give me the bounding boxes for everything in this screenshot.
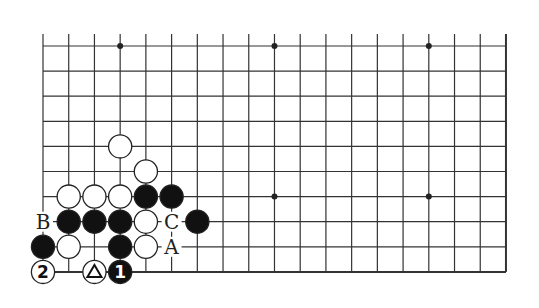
star-point (117, 43, 123, 49)
black-stone (83, 210, 106, 233)
go-board-diagram: 21 BCA (0, 0, 539, 308)
white-stone (83, 260, 106, 283)
move-number: 2 (37, 262, 49, 282)
black-stone (109, 235, 132, 258)
black-stone (186, 210, 209, 233)
point-label-b: B (36, 210, 51, 234)
star-point (426, 43, 432, 49)
white-stone (134, 160, 157, 183)
letter-labels: BCA (36, 210, 180, 259)
white-stone (57, 185, 80, 208)
white-stone: 2 (31, 260, 54, 283)
black-stone (160, 185, 183, 208)
star-point (271, 194, 277, 200)
board-grid (33, 34, 506, 272)
black-stone (31, 235, 54, 258)
point-label-c: C (164, 210, 179, 234)
point-label-a: A (163, 235, 179, 259)
white-stone (57, 235, 80, 258)
move-number: 1 (114, 262, 126, 282)
star-point (271, 43, 277, 49)
white-stone (109, 135, 132, 158)
white-stone (134, 210, 157, 233)
black-stone: 1 (109, 260, 132, 283)
star-point (426, 194, 432, 200)
white-stone (109, 185, 132, 208)
white-stone (134, 235, 157, 258)
white-stone (83, 185, 106, 208)
black-stone (109, 210, 132, 233)
black-stone (134, 185, 157, 208)
black-stone (57, 210, 80, 233)
